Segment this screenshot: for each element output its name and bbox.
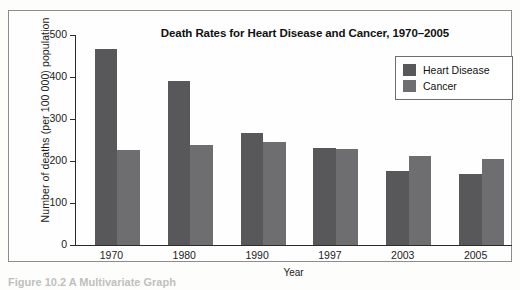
x-axis-tick-label: 1990 bbox=[221, 249, 294, 261]
x-axis-tick-label: 2005 bbox=[439, 249, 512, 261]
bar-group bbox=[241, 35, 286, 245]
y-axis-tick-mark bbox=[70, 119, 75, 120]
x-axis-tick-label: 1997 bbox=[294, 249, 367, 261]
y-axis-tick-label: 100 bbox=[49, 196, 67, 208]
legend-label-cancer: Cancer bbox=[423, 80, 457, 92]
bar-group bbox=[168, 35, 213, 245]
bar-group bbox=[313, 35, 358, 245]
y-axis-tick: 500 bbox=[75, 35, 76, 36]
legend-swatch-cancer bbox=[403, 80, 416, 92]
y-axis-line bbox=[75, 35, 76, 246]
y-axis-tick-label: 300 bbox=[49, 112, 67, 124]
y-axis-tick-mark bbox=[70, 203, 75, 204]
bar-heart-disease bbox=[241, 133, 264, 245]
y-axis-tick: 400 bbox=[75, 77, 76, 78]
bar-cancer bbox=[190, 145, 213, 245]
bar-cancer bbox=[117, 150, 140, 245]
figure-caption: Figure 10.2 A Multivariate Graph bbox=[8, 272, 308, 288]
y-axis-tick-mark bbox=[70, 77, 75, 78]
bar-cancer bbox=[263, 142, 286, 245]
bar-heart-disease bbox=[168, 81, 191, 245]
bar-group bbox=[95, 35, 140, 245]
chart-frame: Number of deaths (per 100 000) populatio… bbox=[8, 10, 512, 262]
legend-swatch-heart-disease bbox=[403, 64, 416, 76]
legend-item: Heart Disease bbox=[403, 62, 506, 78]
chart-legend: Heart Disease Cancer bbox=[395, 56, 513, 100]
y-axis-tick-mark bbox=[70, 245, 75, 246]
x-axis-line bbox=[75, 245, 512, 246]
bar-heart-disease bbox=[95, 49, 118, 245]
legend-label-heart-disease: Heart Disease bbox=[423, 64, 490, 76]
y-axis-tick: 200 bbox=[75, 161, 76, 162]
y-axis-tick-mark bbox=[70, 35, 75, 36]
y-axis-tick: 0 bbox=[75, 245, 76, 246]
figure-caption-text: Figure 10.2 A Multivariate Graph bbox=[8, 276, 176, 288]
legend-item: Cancer bbox=[403, 78, 506, 94]
x-axis-tick-label: 1980 bbox=[148, 249, 221, 261]
figure-root: Number of deaths (per 100 000) populatio… bbox=[0, 0, 520, 290]
y-axis-tick-label: 0 bbox=[61, 238, 67, 250]
y-axis-tick-label: 400 bbox=[49, 70, 67, 82]
bar-cancer bbox=[336, 149, 359, 245]
y-axis-tick-label: 200 bbox=[49, 154, 67, 166]
bar-cancer bbox=[482, 159, 505, 245]
bar-heart-disease bbox=[313, 148, 336, 245]
y-axis-tick: 300 bbox=[75, 119, 76, 120]
bar-heart-disease bbox=[386, 171, 409, 245]
y-axis-tick-mark bbox=[70, 161, 75, 162]
x-axis-tick-label: 2003 bbox=[366, 249, 439, 261]
bar-heart-disease bbox=[459, 174, 482, 245]
y-axis-tick-label: 500 bbox=[49, 28, 67, 40]
x-axis-tick-label: 1970 bbox=[75, 249, 148, 261]
bar-cancer bbox=[409, 156, 432, 245]
y-axis-tick: 100 bbox=[75, 203, 76, 204]
